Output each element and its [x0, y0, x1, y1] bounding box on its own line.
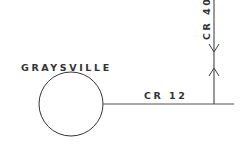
- town-label: GRAYSVILLE: [21, 62, 112, 73]
- road-label-cr-12: CR 12: [144, 90, 187, 101]
- road-cr-40: CR 40: [201, 0, 219, 104]
- road-label-cr-40: CR 40: [201, 0, 212, 40]
- map-diagram: GRAYSVILLE CR 12 CR 40: [0, 0, 246, 154]
- town-graysville: GRAYSVILLE: [21, 62, 112, 136]
- town-circle: [39, 72, 103, 136]
